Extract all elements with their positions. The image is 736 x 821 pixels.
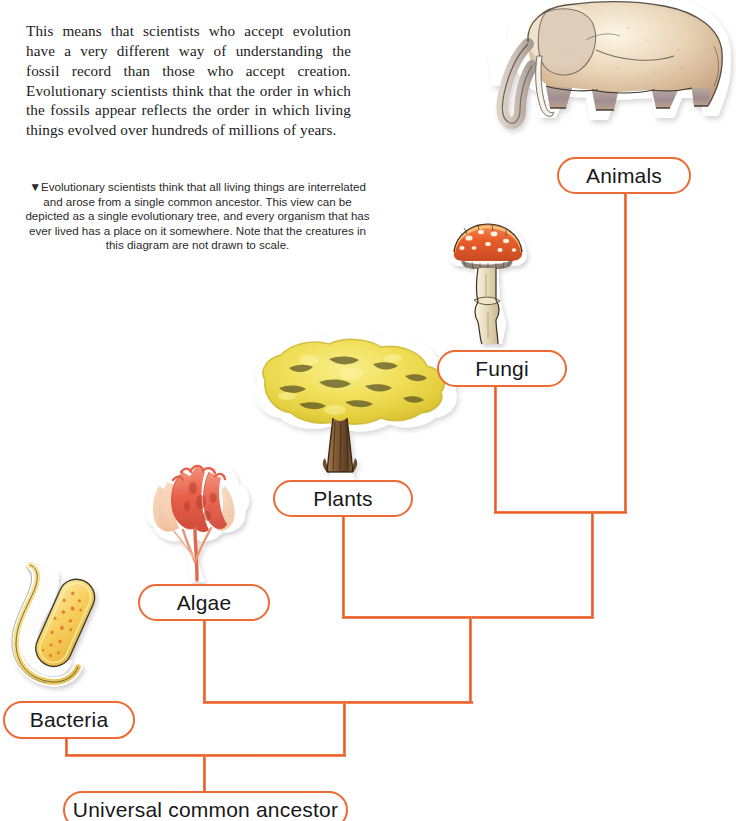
caption-text: Evolutionary scientists think that all l… [25,180,369,251]
body-paragraph: This means that scientists who accept ev… [26,21,351,140]
node-animals-label: Animals [586,164,662,188]
edge-plants-stem [342,516,345,619]
edge-join-algae [203,701,473,704]
algae-illustration [139,458,256,584]
node-bacteria-label: Bacteria [30,708,109,732]
edge-join-plants [342,616,594,619]
caption-triangle-icon: ▼ [29,180,41,194]
figure-caption: ▼Evolutionary scientists think that all … [20,180,375,253]
node-plants[interactable]: Plants [273,480,413,517]
mushroom-illustration [436,216,536,348]
edge-join-fungi-animals [494,511,627,514]
node-animals[interactable]: Animals [557,157,691,194]
edge-root-stem [203,754,206,793]
node-algae[interactable]: Algae [138,584,270,621]
node-root-label: Universal common ancestor [73,798,338,821]
node-universal-common-ancestor[interactable]: Universal common ancestor [63,791,348,821]
node-algae-label: Algae [177,591,232,615]
elephant-illustration [468,0,736,154]
node-bacteria[interactable]: Bacteria [3,701,135,739]
figure-page: This means that scientists who accept ev… [0,0,736,821]
edge-algae-stem [203,620,206,704]
edge-fungi-stem [494,385,497,514]
edge-fungi-animals-descent [591,511,594,619]
edge-plants-descent [469,616,472,704]
node-fungi-label: Fungi [475,357,529,381]
edge-algae-descent [343,701,346,757]
node-plants-label: Plants [313,487,373,511]
bacterium-illustration [8,559,104,699]
node-fungi[interactable]: Fungi [437,350,567,387]
edge-animals-stem [624,192,627,514]
tree-illustration [243,330,467,480]
